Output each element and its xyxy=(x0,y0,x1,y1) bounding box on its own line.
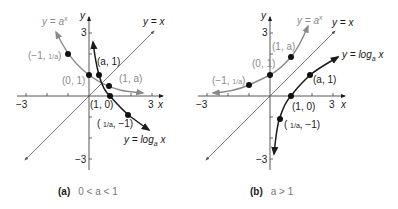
y-min-tick-label: −3 xyxy=(256,154,268,165)
x-min-tick-label: −3 xyxy=(196,99,208,110)
exp-label-a: y = ax xyxy=(41,15,68,27)
x-max-tick-label: 3 xyxy=(148,99,154,110)
x-axis-label: x xyxy=(340,99,347,110)
caption-a-condition: 0 < a < 1 xyxy=(78,186,117,197)
log-label-a: y = loga x xyxy=(123,134,166,147)
point-label-b-inv: ( 1/a, −1) xyxy=(284,119,320,130)
point-label-a-a-1: (a, 1) xyxy=(97,56,120,67)
point-label-a-1-a: (1, a) xyxy=(119,73,142,84)
caption-b: (b)a > 1 xyxy=(250,186,293,197)
y-max-tick-label: 3 xyxy=(262,27,268,38)
exp-label-b: y = ax xyxy=(296,14,323,26)
caption-b-tag: (b) xyxy=(250,186,263,197)
point-label-a-1-0: (1, 0) xyxy=(90,99,113,110)
caption-b-condition: a > 1 xyxy=(271,186,294,197)
point-label-a-0-1: (0, 1) xyxy=(62,75,85,86)
point-label-b-a-1: (a, 1) xyxy=(313,74,336,85)
panel-a: −3 3 3 −3 x y y = ax y = x y = loga x (−… xyxy=(16,10,166,170)
point-label-b-1-a: (1, a) xyxy=(272,41,295,52)
y-max-tick-label: 3 xyxy=(81,27,87,38)
point-label-b-neg1: (−1, 1/a) xyxy=(212,75,245,86)
identity-line xyxy=(206,31,335,160)
x-min-tick-label: −3 xyxy=(16,99,28,110)
y-min-tick-label: −3 xyxy=(75,154,87,165)
x-max-tick-label: 3 xyxy=(329,99,335,110)
log-label-b: y = loga x xyxy=(341,49,384,62)
y-axis-label: y xyxy=(260,10,267,21)
identity-label-b: y = x xyxy=(331,17,354,28)
caption-a-tag: (a) xyxy=(58,186,70,197)
figure: −3 3 3 −3 x y y = ax y = x y = loga x (−… xyxy=(0,0,398,209)
x-axis-label: x xyxy=(157,99,164,110)
point-label-a-inv: ( 1/a, −1) xyxy=(97,118,133,129)
point-label-b-1-0: (1, 0) xyxy=(292,101,315,112)
caption-a: (a)0 < a < 1 xyxy=(58,186,118,197)
panel-b: −3 3 3 −3 x y y = ax y = x y = loga x (−… xyxy=(196,10,384,170)
point-label-b-0-1: (0, 1) xyxy=(252,58,275,69)
y-axis-label: y xyxy=(79,10,86,21)
identity-label-a: y = x xyxy=(142,16,165,27)
point-label-a-neg1: (−1, 1/a) xyxy=(28,50,61,61)
